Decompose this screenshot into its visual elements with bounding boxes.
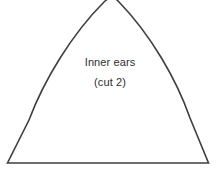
pattern-piece-drawing xyxy=(0,0,220,171)
inner-ear-outline-path xyxy=(8,0,209,163)
pattern-sheet: Inner ears (cut 2) xyxy=(0,0,220,171)
